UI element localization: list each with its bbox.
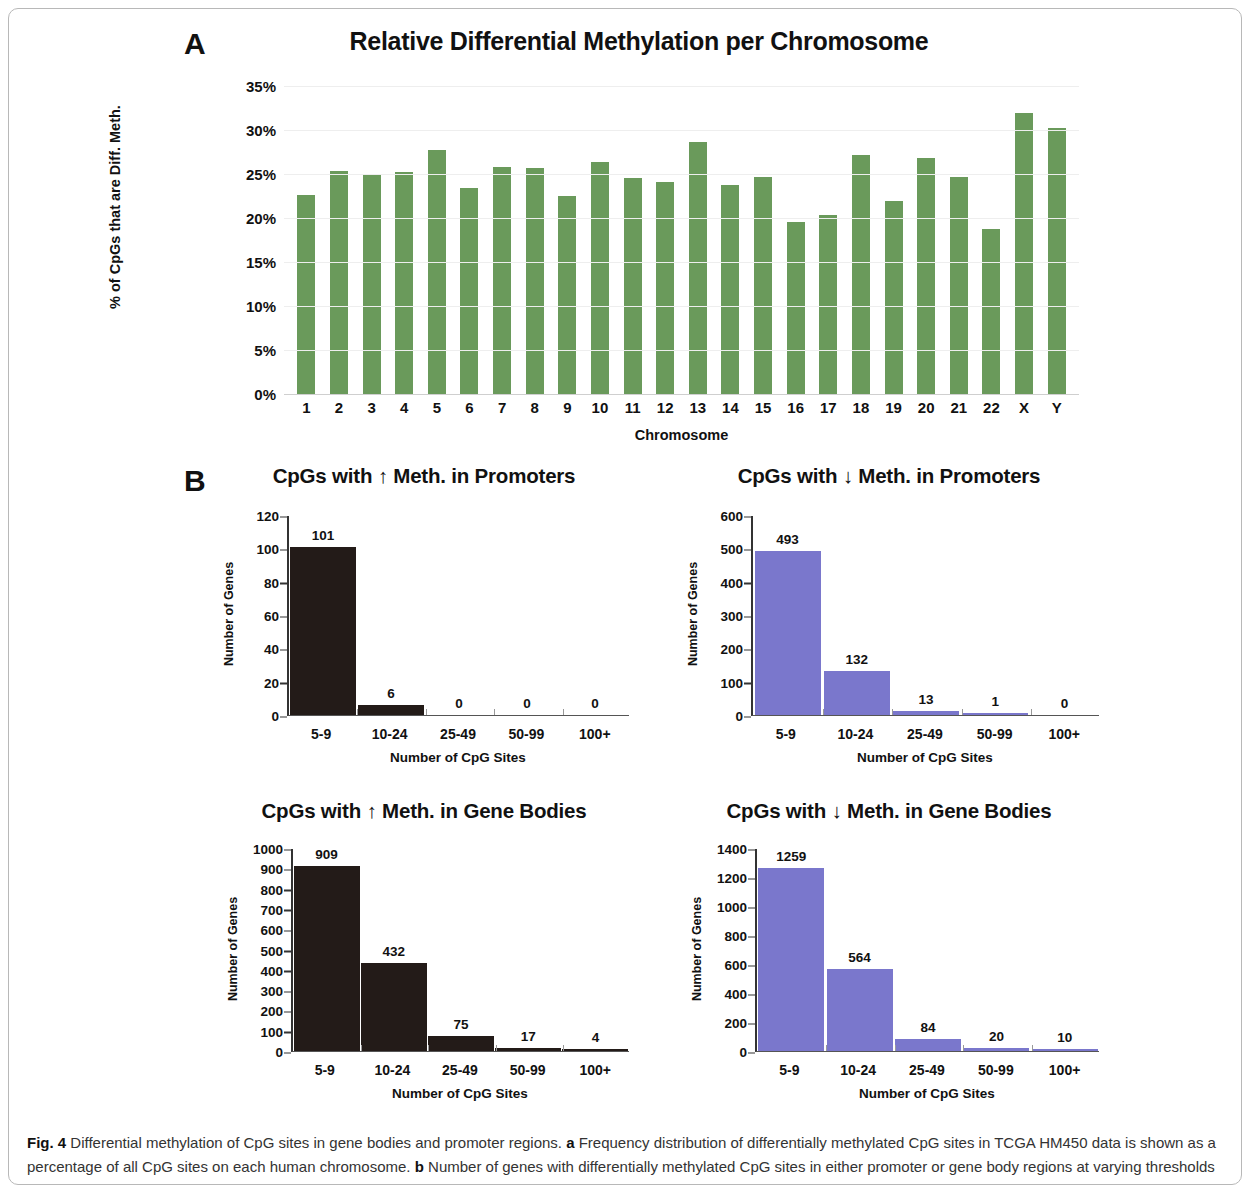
caption-bold-a: a: [566, 1134, 574, 1151]
subchart-y-tick-label: 80: [264, 575, 279, 590]
subchart-x-grid-tick: [826, 1045, 827, 1051]
panel-a-x-tick-label: 18: [845, 399, 878, 416]
panel-a-bar-slot: [388, 86, 421, 394]
panel-a-bar-16: [787, 222, 805, 394]
subchart-bar-slot: 13: [891, 516, 960, 715]
panel-a-bar-slot: [877, 86, 910, 394]
panel-a-bar-1: [297, 195, 315, 394]
panel-a-x-tick-label: 6: [453, 399, 486, 416]
subchart-bar-5-9: [758, 868, 824, 1051]
subchart-bar-slot: 1259: [757, 849, 825, 1051]
subchart-x-grid-tick: [823, 709, 824, 715]
panel-a-bar-slot: [1040, 86, 1073, 394]
figure-caption: Fig. 4 Differential methylation of CpG s…: [27, 1131, 1243, 1180]
subchart-y-tick-label: 700: [260, 902, 283, 917]
panel-a-x-tick-label: 2: [323, 399, 356, 416]
subchart-bar-25-49: [893, 711, 959, 715]
subchart-x-tick-label: 50-99: [492, 726, 560, 742]
panel-a-x-tick-label: 15: [747, 399, 780, 416]
subchart-bar-group: 1016000: [289, 516, 629, 715]
panel-a-bar-slot: [845, 86, 878, 394]
subchart-x-axis-label: Number of CpG Sites: [755, 1086, 1099, 1101]
subchart-title: CpGs with ↓ Meth. in Promoters: [669, 464, 1109, 488]
panel-a-gridline: [284, 218, 1079, 219]
subchart-y-tick-label: 400: [720, 575, 743, 590]
subchart-bar-value-label: 1259: [776, 849, 806, 864]
panel-a-bar-slot: [486, 86, 519, 394]
panel-a-letter: A: [184, 27, 205, 61]
subchart-x-tick-label: 25-49: [426, 1062, 494, 1078]
subchart-bar-value-label: 432: [383, 944, 406, 959]
panel-a-gridline: [284, 130, 1079, 131]
panel-a-x-tick-label: 7: [486, 399, 519, 416]
subchart-y-tick-label: 400: [724, 987, 747, 1002]
subchart-bar-slot: 4: [562, 849, 629, 1051]
panel-a-bar-slot: [355, 86, 388, 394]
subchart-x-ticks: 5-910-2425-4950-99100+: [755, 1062, 1099, 1078]
panel-a-x-axis-ticks: 12345678910111213141516171819202122XY: [284, 399, 1079, 416]
panel-a-bar-slot: [812, 86, 845, 394]
panel-a-x-tick-label: 8: [518, 399, 551, 416]
subchart-y-ticks: 020406080100120: [231, 516, 279, 716]
subchart-x-grid-tick: [963, 1045, 964, 1051]
panel-a-bar-7: [493, 167, 511, 394]
subchart-y-tick-label: 120: [256, 509, 279, 524]
subchart-down-meth-gene-bodies: CpGs with ↓ Meth. in Gene BodiesNumber o…: [669, 799, 1109, 1124]
subchart-bar-10-24: [361, 963, 427, 1051]
subchart-x-tick-label: 100+: [1029, 726, 1099, 742]
panel-a-gridline: [284, 174, 1079, 175]
subchart-y-tick-label: 100: [260, 1024, 283, 1039]
subchart-bar-slot: 432: [360, 849, 427, 1051]
subchart-x-grid-tick: [361, 1045, 362, 1051]
subchart-bar-value-label: 0: [591, 696, 599, 711]
panel-a-bar-slot: [551, 86, 584, 394]
panel-a-bar-10: [591, 162, 609, 394]
subchart-bar-slot: 0: [561, 516, 629, 715]
panel-a-bar-slot: [682, 86, 715, 394]
panel-a-x-tick-label: 17: [812, 399, 845, 416]
subchart-x-ticks: 5-910-2425-4950-99100+: [751, 726, 1099, 742]
subchart-bar-value-label: 20: [989, 1029, 1004, 1044]
panel-a-x-tick-label: 4: [388, 399, 421, 416]
panel-a-bar-slot: [943, 86, 976, 394]
panel-a-bar-8: [526, 168, 544, 394]
subchart-bar-5-9: [755, 551, 821, 715]
panel-a-x-tick-label: 13: [682, 399, 715, 416]
panel-a-bar-slot: [290, 86, 323, 394]
panel-a-x-tick-label: X: [1008, 399, 1041, 416]
panel-a-x-tick-label: 11: [616, 399, 649, 416]
panel-a-bar-15: [754, 177, 772, 394]
subchart-bar-slot: 1: [961, 516, 1030, 715]
subchart-bar-slot: 75: [427, 849, 494, 1051]
subchart-plot-area: 1016000: [287, 516, 629, 716]
subchart-bar-50-99: [963, 1048, 1029, 1051]
panel-a-bar-slot: [975, 86, 1008, 394]
subchart-x-tick-label: 5-9: [751, 726, 821, 742]
subchart-y-tick-label: 40: [264, 642, 279, 657]
subchart-bar-slot: 6: [357, 516, 425, 715]
subchart-y-tick-label: 300: [260, 984, 283, 999]
panel-a-bar-19: [885, 201, 903, 394]
subchart-bar-slot: 493: [753, 516, 822, 715]
panel-a-x-tick-label: Y: [1040, 399, 1073, 416]
subchart-x-grid-tick: [426, 709, 427, 715]
subchart-x-grid-tick: [1032, 1045, 1033, 1051]
subchart-y-tick-label: 200: [724, 1016, 747, 1031]
subchart-bar-slot: 20: [962, 849, 1030, 1051]
panel-a-x-tick-label: 10: [584, 399, 617, 416]
subchart-y-tick-label: 600: [724, 958, 747, 973]
panel-a-title: Relative Differential Methylation per Ch…: [279, 27, 999, 56]
panel-a-bar-9: [558, 196, 576, 394]
panel-a-bar-21: [950, 177, 968, 394]
panel-a-gridline: [284, 86, 1079, 87]
subchart-bar-value-label: 0: [455, 696, 463, 711]
panel-a-bar-slot: [453, 86, 486, 394]
panel-a-y-tick-label: 35%: [246, 78, 276, 95]
subchart-x-grid-tick: [357, 709, 358, 715]
panel-a-bar-3: [363, 175, 381, 394]
panel-a-x-tick-label: 5: [421, 399, 454, 416]
subchart-x-tick-label: 100+: [561, 1062, 629, 1078]
panel-a-bar-slot: [323, 86, 356, 394]
panel-a-bar-11: [624, 178, 642, 394]
panel-a-x-tick-label: 14: [714, 399, 747, 416]
